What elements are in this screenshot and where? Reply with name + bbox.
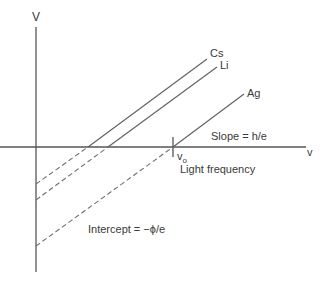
x-axis-label: v — [307, 147, 313, 158]
li-line-solid — [108, 67, 217, 147]
series-label-ag: Ag — [247, 88, 260, 99]
cs-line-solid — [88, 59, 207, 147]
intercept-annotation: Intercept = −ϕ/e — [88, 224, 165, 235]
y-axis-label: V — [32, 11, 40, 23]
threshold-symbol: v — [177, 150, 183, 162]
series-label-cs: Cs — [210, 48, 223, 59]
photoelectric-diagram — [0, 0, 324, 286]
li-line-dashed — [36, 147, 108, 200]
x-axis-description: Light frequency — [180, 164, 255, 175]
slope-annotation: Slope = h/e — [211, 131, 267, 142]
cs-line-dashed — [36, 147, 88, 184]
series-label-li: Li — [220, 60, 229, 71]
threshold-frequency-label: vo — [177, 151, 187, 162]
